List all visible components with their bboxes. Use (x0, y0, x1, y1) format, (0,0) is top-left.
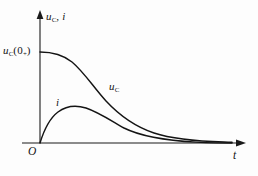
initial-voltage-label: uC(0+) (3, 45, 31, 58)
plot-canvas (0, 0, 258, 176)
uc-curve-label-subscript: C (115, 86, 120, 93)
current-curve-label: i (56, 97, 59, 108)
initial-voltage-paren-open: (0 (13, 44, 23, 56)
x-axis-arrow-icon (236, 139, 246, 146)
initial-voltage-paren-close: ) (27, 44, 31, 56)
transient-response-figure: uC, i uC(0+) uC i O t (0, 0, 258, 176)
y-axis-label-tail: , i (56, 10, 65, 22)
y-axis-label: uC, i (46, 11, 65, 24)
origin-label: O (28, 146, 37, 158)
uc-voltage-curve (40, 52, 232, 142)
uc-curve-label: uC (109, 81, 119, 94)
y-axis-arrow-icon (37, 10, 44, 19)
x-axis-label: t (233, 150, 236, 162)
